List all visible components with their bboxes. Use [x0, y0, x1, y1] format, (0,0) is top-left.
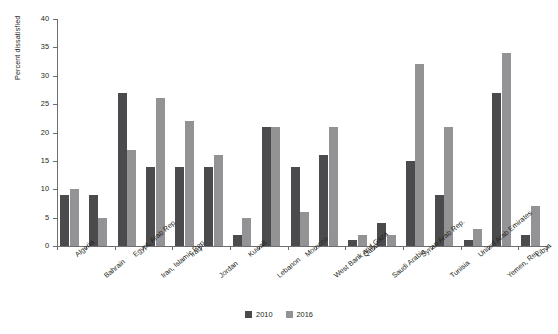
legend-item-2010[interactable]: 2010 [245, 311, 272, 318]
bar-2016 [242, 218, 251, 246]
x-tick-mark [115, 246, 116, 250]
bar-2010 [492, 93, 501, 246]
y-tick-label: 5 [45, 213, 49, 222]
bar-group [86, 19, 115, 246]
bar-group [115, 19, 144, 246]
bar-group [57, 19, 86, 246]
bar-2010 [118, 93, 127, 246]
bar-group [288, 19, 317, 246]
legend-swatch-icon [245, 311, 252, 318]
bar-2016 [185, 121, 194, 246]
bar-2010 [319, 155, 328, 246]
bar-group [259, 19, 288, 246]
bar-group [172, 19, 201, 246]
x-tick-mark [230, 246, 231, 250]
y-tick-label: 25 [41, 99, 49, 108]
bar-2010 [521, 235, 530, 246]
y-tick-label: 0 [45, 241, 49, 250]
bar-group [403, 19, 432, 246]
bar-group [143, 19, 172, 246]
bars-layer [57, 19, 547, 246]
bar-group [345, 19, 374, 246]
bar-2016 [415, 64, 424, 246]
bar-2016 [502, 53, 511, 246]
bar-2010 [464, 240, 473, 246]
bar-group [230, 19, 259, 246]
bar-chart-figure: Percent dissatisfied 0510152025303540 Al… [0, 0, 558, 334]
x-tick-mark [288, 246, 289, 250]
bar-2016 [98, 218, 107, 246]
legend-label: 2016 [297, 311, 313, 318]
bar-2016 [127, 150, 136, 246]
bar-group [316, 19, 345, 246]
bar-2016 [271, 127, 280, 246]
bar-2010 [262, 127, 271, 246]
legend-label: 2010 [256, 311, 272, 318]
y-tick-label: 20 [41, 128, 49, 137]
x-tick-mark [345, 246, 346, 250]
legend-item-2016[interactable]: 2016 [286, 311, 313, 318]
bar-2010 [348, 240, 357, 246]
bar-2016 [329, 127, 338, 246]
bar-group [432, 19, 461, 246]
bar-group [461, 19, 490, 246]
x-tick-mark [57, 246, 58, 250]
y-tick-label: 35 [41, 42, 49, 51]
bar-2010 [291, 167, 300, 246]
x-axis-label: Lebanon [275, 255, 302, 280]
x-tick-mark [403, 246, 404, 250]
bar-2016 [300, 212, 309, 246]
y-axis-title: Percent dissatisfied [13, 0, 22, 80]
bar-group [489, 19, 518, 246]
x-axis-label: Jordan [217, 259, 240, 280]
bar-group [374, 19, 403, 246]
y-tick-label: 15 [41, 156, 49, 165]
bar-2010 [406, 161, 415, 246]
bar-2010 [60, 195, 69, 246]
x-axis-line [57, 246, 547, 247]
y-tick-label: 30 [41, 71, 49, 80]
chart-legend: 20102016 [0, 311, 558, 318]
x-tick-mark [518, 246, 519, 250]
legend-swatch-icon [286, 311, 293, 318]
bar-2016 [70, 189, 79, 246]
x-tick-mark [461, 246, 462, 250]
x-axis-label: Tunisia [448, 258, 471, 280]
bar-2010 [175, 167, 184, 246]
bar-2010 [233, 235, 242, 246]
x-tick-mark [172, 246, 173, 250]
y-tick-label: 10 [41, 184, 49, 193]
y-tick-label: 40 [41, 14, 49, 23]
x-axis-label: Bahrain [102, 257, 127, 280]
bar-2010 [204, 167, 213, 246]
bar-group [201, 19, 230, 246]
bar-2016 [473, 229, 482, 246]
bar-2016 [214, 155, 223, 246]
